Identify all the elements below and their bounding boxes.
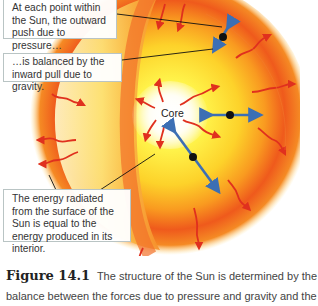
figure-number: Figure 14.1 <box>6 268 90 283</box>
callout-pressure: At each point within the Sun, the outwar… <box>3 0 117 39</box>
callout-energy: The energy radiated from the surface of … <box>3 189 131 242</box>
callout-gravity: …is balanced by the inward pull due to g… <box>3 53 122 82</box>
caption-line-2: balance between the forces due to pressu… <box>6 286 306 306</box>
figure-caption: Figure 14.1 The structure of the Sun is … <box>6 266 306 306</box>
sun-structure-diagram: At each point within the Sun, the outwar… <box>0 0 300 256</box>
core-label: Core <box>161 107 184 119</box>
caption-text-1: The structure of the Sun is determined b… <box>97 270 317 282</box>
caption-line-1: Figure 14.1 The structure of the Sun is … <box>6 266 306 286</box>
